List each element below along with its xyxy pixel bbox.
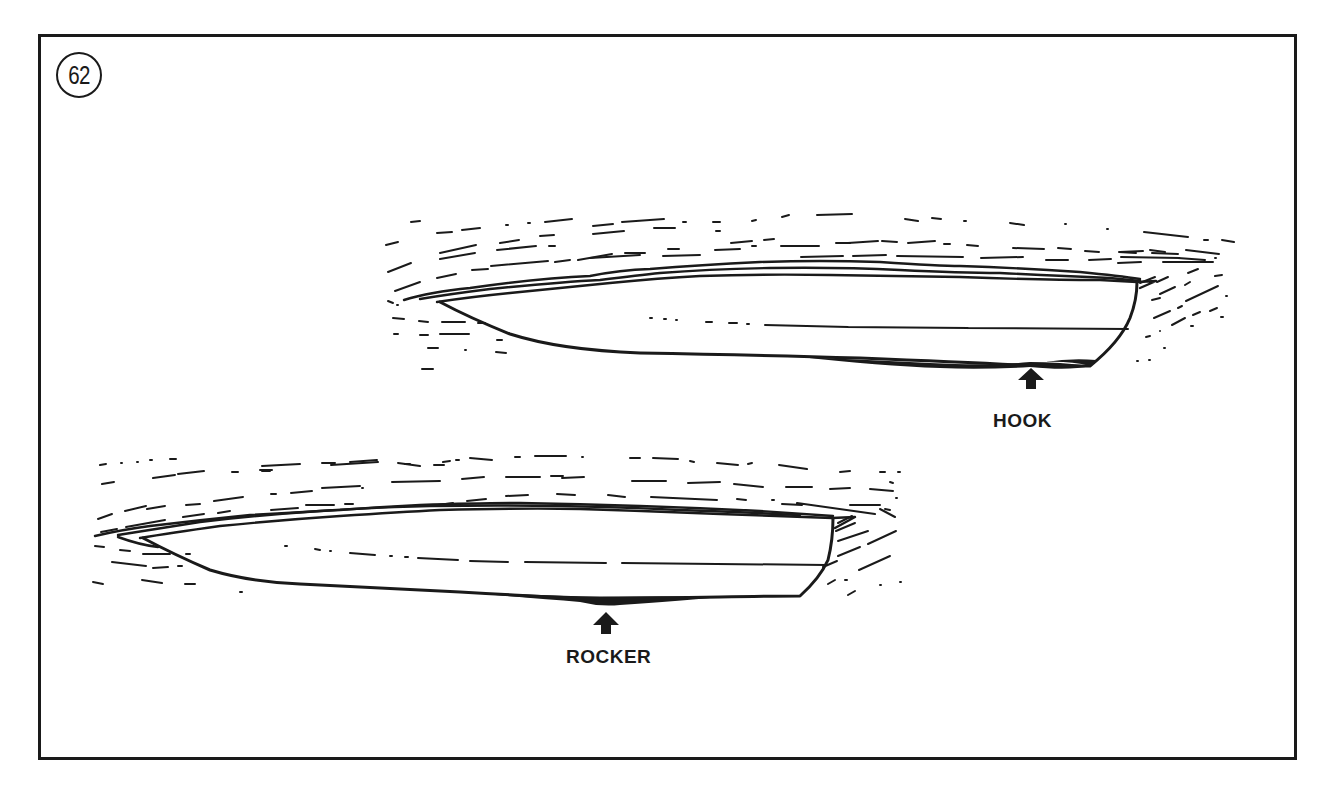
up-arrow-icon (1018, 368, 1044, 389)
hook-label: HOOK (993, 410, 1052, 432)
upper-hull (440, 282, 1137, 369)
lower-hull (143, 518, 833, 606)
lower-sheer-lines (95, 503, 855, 547)
upper-boat (386, 214, 1234, 369)
rocker-label: ROCKER (566, 646, 651, 668)
up-arrow-icon (593, 612, 619, 634)
lower-boat (93, 456, 901, 606)
hull-comparison-drawing (0, 0, 1323, 789)
upper-sheer-lines (404, 261, 1156, 302)
